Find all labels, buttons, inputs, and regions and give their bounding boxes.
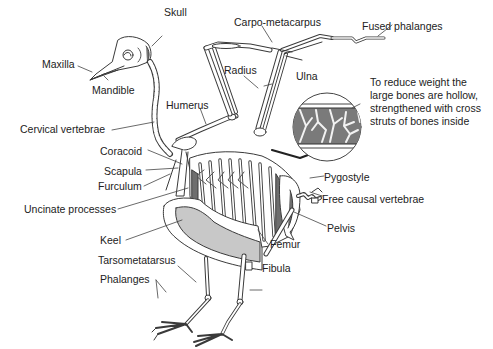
skeleton-illustration [0,0,493,349]
label-mandible: Mandible [92,84,135,96]
humerus-bone [178,114,236,140]
label-furculum: Furculum [98,180,142,192]
label-maxilla: Maxilla [42,58,75,70]
label-pygostyle: Pygostyle [324,171,370,183]
inset-note-line: large bones are hollow, [370,89,481,102]
label-ulna: Ulna [296,70,318,82]
right-leg-lower-bones [222,299,243,334]
label-pelvis: Pelvis [327,222,355,234]
label-phalanges: Phalanges [100,273,150,285]
radius-ulna-bones [254,52,286,136]
label-tarsometatarsus: Tarsometatarsus [98,254,176,266]
hollow-bone-inset [290,93,366,161]
label-scapula: Scapula [104,165,142,177]
label-coracoid: Coracoid [100,145,142,157]
label-carpo-metacarpus: Carpo-metacarpus [234,16,321,28]
inset-note-line: To reduce weight the [370,76,481,89]
inset-note-line: struts of bones inside [370,115,481,128]
left-leg-bones [186,258,211,324]
label-fused-phalanges: Fused phalanges [362,20,443,32]
skull-bone [90,37,151,80]
label-skull: Skull [164,6,187,18]
tail-vertebrae [298,188,322,203]
left-foot-toes [152,322,192,340]
right-foot-toes [194,334,232,346]
bird-skeleton-diagram: Skull Maxilla Mandible Carpo-metacarpus … [0,0,493,349]
label-femur: Femur [270,238,300,250]
label-keel: Keel [100,234,121,246]
label-radius: Radius [224,64,257,76]
inset-note-line: strengthened with cross [370,102,481,115]
inset-note: To reduce weight the large bones are hol… [370,76,481,128]
label-fibula: Fibula [262,262,291,274]
label-free-causal-vertebrae: Free causal vertebrae [322,193,424,205]
fibula-bone [240,256,252,300]
label-humerus: Humerus [166,99,209,111]
label-cervical-vertebrae: Cervical vertebrae [20,123,105,135]
fused-phalanges-bone [332,38,384,42]
upper-wing-bones [206,44,270,115]
label-uncinate-processes: Uncinate processes [24,203,116,215]
